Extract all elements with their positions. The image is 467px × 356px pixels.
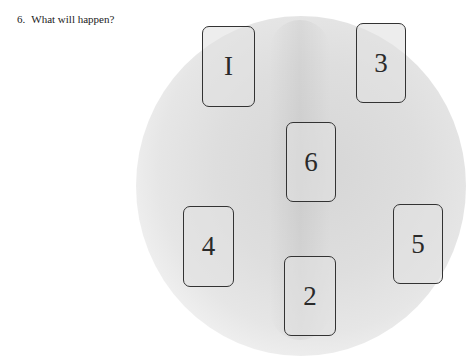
question-number: 6. (17, 13, 25, 25)
card-position-2: 2 (284, 256, 336, 336)
card-position-1: I (202, 26, 255, 107)
card-label: I (224, 51, 233, 82)
card-position-4: 4 (183, 206, 234, 287)
card-position-3: 3 (356, 23, 406, 103)
question-text: What will happen? (31, 13, 114, 25)
card-label: 5 (411, 229, 425, 260)
card-position-6: 6 (286, 122, 336, 202)
card-label: 6 (304, 147, 318, 178)
card-label: 2 (303, 281, 317, 312)
card-label: 4 (202, 231, 216, 262)
card-position-5: 5 (393, 204, 443, 284)
question-title: 6.What will happen? (17, 13, 114, 25)
card-label: 3 (374, 48, 388, 79)
